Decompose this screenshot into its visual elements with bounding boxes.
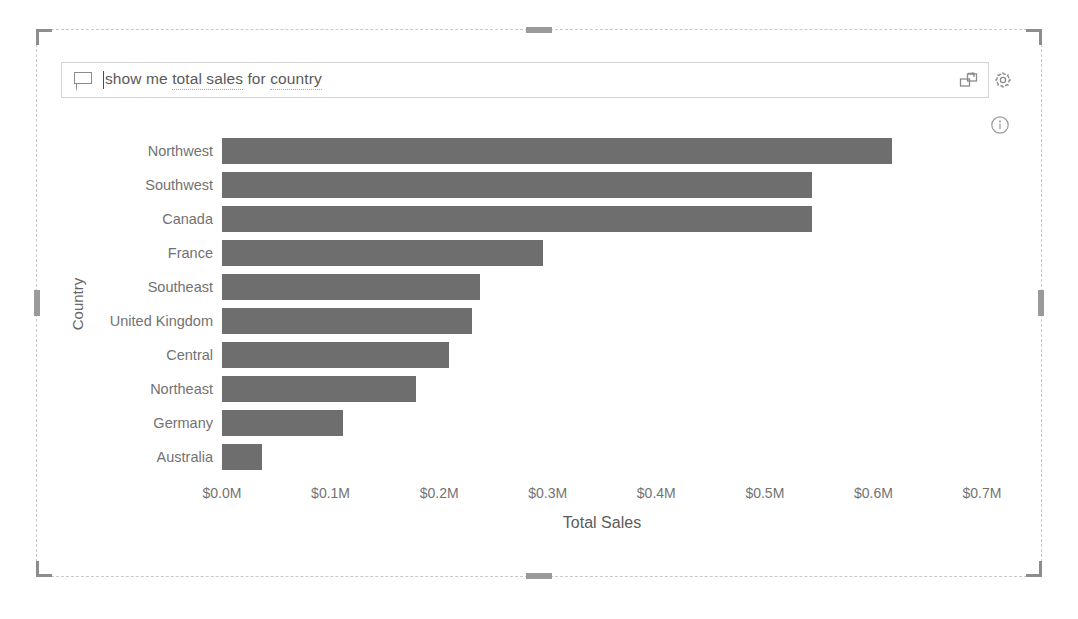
bar-row[interactable]: Northeast [222, 372, 982, 406]
category-label: Australia [157, 449, 213, 465]
bar[interactable] [222, 342, 449, 368]
resize-handle-top-left[interactable] [36, 29, 52, 45]
bar[interactable] [222, 138, 892, 164]
bar-row[interactable]: Germany [222, 406, 982, 440]
bar[interactable] [222, 274, 480, 300]
x-axis-title: Total Sales [222, 514, 982, 532]
category-label: Germany [153, 415, 213, 431]
category-label: Canada [162, 211, 213, 227]
bar-row[interactable]: Northwest [222, 134, 982, 168]
x-tick-label: $0.5M [745, 485, 784, 501]
x-tick-label: $0.1M [311, 485, 350, 501]
category-label: Northeast [150, 381, 213, 397]
resize-handle-right[interactable] [1038, 290, 1044, 316]
x-tick-label: $0.7M [963, 485, 1002, 501]
category-label: United Kingdom [110, 313, 213, 329]
bar-row[interactable]: France [222, 236, 982, 270]
bar-chart[interactable]: Country NorthwestSouthwestCanadaFranceSo… [37, 30, 1043, 578]
category-label: Southwest [145, 177, 213, 193]
bar[interactable] [222, 206, 812, 232]
x-tick-label: $0.4M [637, 485, 676, 501]
resize-handle-top-right[interactable] [1026, 29, 1042, 45]
x-axis-ticks: $0.0M$0.1M$0.2M$0.3M$0.4M$0.5M$0.6M$0.7M [222, 485, 982, 509]
resize-handle-bottom-left[interactable] [36, 561, 52, 577]
x-tick-label: $0.3M [528, 485, 567, 501]
bar[interactable] [222, 308, 472, 334]
bar[interactable] [222, 172, 812, 198]
plot-area: NorthwestSouthwestCanadaFranceSoutheastU… [222, 134, 982, 474]
x-tick-label: $0.2M [420, 485, 459, 501]
bar-row[interactable]: United Kingdom [222, 304, 982, 338]
qna-visual-container[interactable]: show me total sales for country [36, 29, 1042, 577]
category-label: Central [166, 347, 213, 363]
category-label: Southeast [148, 279, 213, 295]
bar-row[interactable]: Australia [222, 440, 982, 474]
bar[interactable] [222, 376, 416, 402]
bar[interactable] [222, 444, 262, 470]
y-axis-title: Country [69, 278, 86, 331]
bar[interactable] [222, 240, 543, 266]
resize-handle-bottom[interactable] [526, 573, 552, 579]
resize-handle-bottom-right[interactable] [1026, 561, 1042, 577]
resize-handle-left[interactable] [34, 290, 40, 316]
category-label: France [168, 245, 213, 261]
bar-row[interactable]: Southwest [222, 168, 982, 202]
bar[interactable] [222, 410, 343, 436]
category-label: Northwest [148, 143, 213, 159]
bar-row[interactable]: Central [222, 338, 982, 372]
x-tick-label: $0.0M [203, 485, 242, 501]
bar-row[interactable]: Canada [222, 202, 982, 236]
x-tick-label: $0.6M [854, 485, 893, 501]
resize-handle-top[interactable] [526, 27, 552, 33]
bar-row[interactable]: Southeast [222, 270, 982, 304]
